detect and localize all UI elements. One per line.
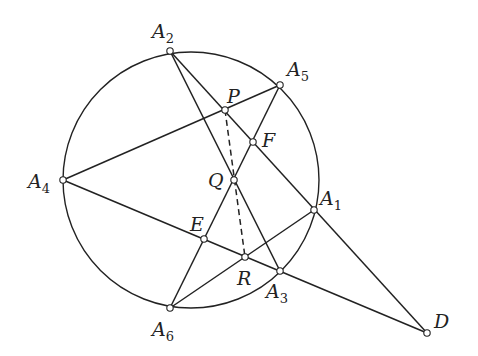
- label-p: P: [226, 85, 241, 107]
- label-f: F: [261, 129, 276, 151]
- segment-a5-a6: [170, 85, 280, 308]
- segment-a2-d: [170, 51, 427, 333]
- label-a5: A5: [285, 58, 309, 84]
- point-e: [201, 236, 207, 242]
- label-a3: A3: [264, 280, 288, 306]
- point-a2: [167, 48, 173, 54]
- line-segments: [63, 51, 427, 333]
- label-d: D: [433, 310, 449, 332]
- point-q: [231, 177, 237, 183]
- geometry-diagram: A1A2A3A4A5A6PFQERD: [0, 0, 478, 356]
- point-p: [222, 107, 228, 113]
- point-a5: [277, 82, 283, 88]
- figure-svg: A1A2A3A4A5A6PFQERD: [0, 0, 478, 356]
- label-e: E: [189, 213, 204, 235]
- label-a6: A6: [150, 318, 174, 344]
- label-a2: A2: [150, 20, 174, 46]
- label-r: R: [236, 267, 251, 289]
- label-a4: A4: [26, 170, 50, 196]
- point-labels: A1A2A3A4A5A6PFQERD: [26, 20, 449, 344]
- point-r: [242, 254, 248, 260]
- segment-a4-a5: [63, 85, 280, 180]
- segment-a2-a3: [170, 51, 280, 271]
- point-f: [250, 139, 256, 145]
- label-a1: A1: [318, 187, 342, 213]
- point-a3: [277, 268, 283, 274]
- point-a1: [311, 207, 317, 213]
- point-a6: [167, 305, 173, 311]
- label-q: Q: [208, 169, 224, 191]
- point-a4: [60, 177, 66, 183]
- point-d: [424, 330, 430, 336]
- points: [60, 48, 430, 336]
